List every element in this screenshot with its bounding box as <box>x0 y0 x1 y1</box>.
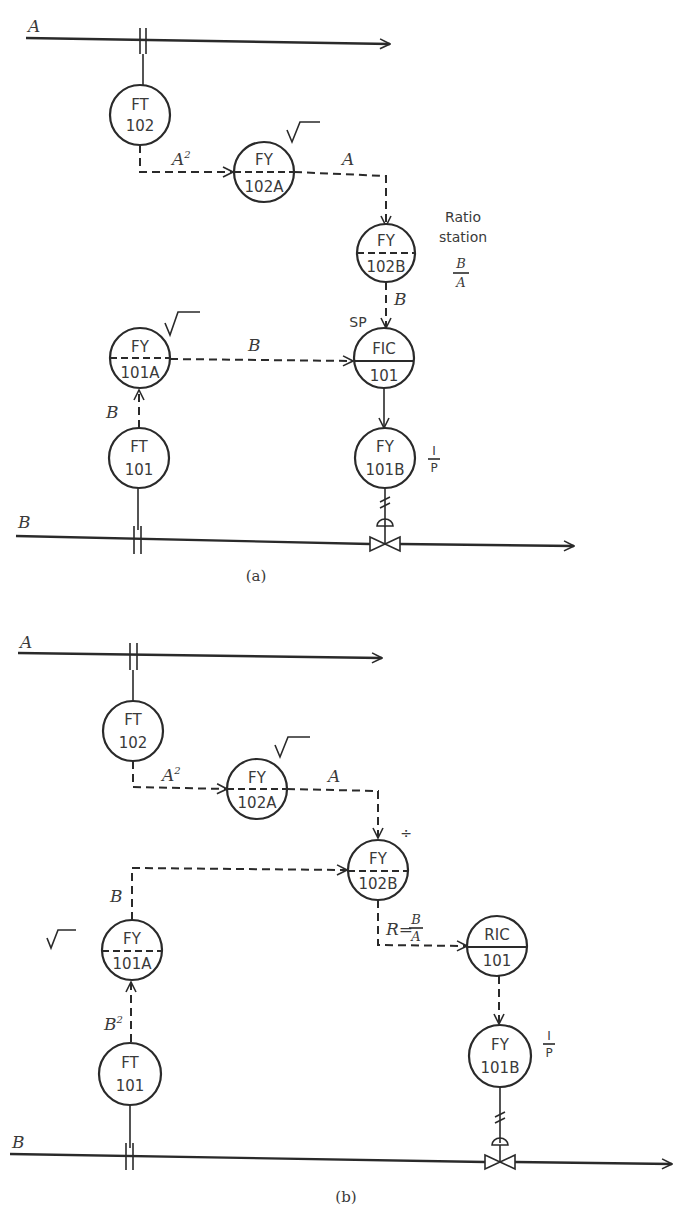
ip-converter-label: I P <box>428 444 440 475</box>
sqrt-icon <box>275 737 310 757</box>
svg-text:101: 101 <box>116 1077 145 1095</box>
svg-text:FY: FY <box>131 338 150 356</box>
svg-text:101: 101 <box>483 952 512 970</box>
instrument-ft101: FT 101 <box>99 1043 161 1105</box>
svg-text:FT: FT <box>131 96 149 114</box>
orifice-plate-a <box>130 643 137 670</box>
svg-text:102B: 102B <box>359 875 398 893</box>
instrument-ft102: FT 102 <box>110 85 170 145</box>
label-b-squared: B2 <box>103 1014 123 1034</box>
instrument-ft101: FT 101 <box>109 428 169 488</box>
label-a-squared: A2 <box>160 765 181 785</box>
svg-text:B: B <box>455 256 466 271</box>
divide-icon: ÷ <box>400 825 412 841</box>
stream-b-label: B <box>11 1132 25 1152</box>
instrument-fy102a: FY 102A <box>234 142 294 202</box>
svg-text:FY: FY <box>377 232 396 250</box>
stream-a-pipe <box>26 38 390 44</box>
svg-text:FY: FY <box>369 850 388 868</box>
stream-a-pipe <box>18 653 382 658</box>
label-b-to-fic: B <box>247 335 261 355</box>
svg-text:102: 102 <box>119 734 148 752</box>
svg-text:A: A <box>455 275 465 290</box>
svg-text:FY: FY <box>491 1036 510 1054</box>
svg-text:FY: FY <box>123 930 142 948</box>
instrument-fic101: FIC 101 <box>354 328 414 388</box>
svg-text:102: 102 <box>126 117 155 135</box>
stream-a-label: A <box>18 632 32 652</box>
ratio-fraction: B A <box>453 256 469 290</box>
svg-text:FY: FY <box>376 438 395 456</box>
sqrt-icon <box>47 930 76 948</box>
svg-text:I: I <box>547 1029 551 1043</box>
instrument-fy102b-ratio-station: FY 102B <box>357 224 415 282</box>
ratio-fraction: B A <box>409 912 423 944</box>
caption-b: (b) <box>335 1188 356 1206</box>
stream-a-label: A <box>26 16 40 36</box>
svg-text:102A: 102A <box>238 794 278 812</box>
svg-text:RIC: RIC <box>484 926 509 944</box>
signal-b-to-fic <box>170 359 353 361</box>
diagram-a: A FT 102 A2 FY 102A A <box>16 16 574 585</box>
label-b-out: B <box>109 886 123 906</box>
svg-text:P: P <box>430 461 437 475</box>
sp-label: SP <box>349 314 366 330</box>
ip-converter-label: I P <box>543 1029 555 1060</box>
svg-text:FT: FT <box>130 438 148 456</box>
ratio-control-diagrams: A FT 102 A2 FY 102A A <box>0 0 691 1220</box>
svg-text:B: B <box>410 912 421 927</box>
caption-a: (a) <box>246 567 267 585</box>
label-b-from-ft101: B <box>105 402 119 422</box>
label-a-out: A <box>340 149 354 169</box>
svg-text:FY: FY <box>248 769 267 787</box>
stream-b-label: B <box>17 512 31 532</box>
instrument-fy102b-divider: FY 102B <box>348 840 408 900</box>
stream-b-pipe-out <box>515 1162 672 1164</box>
svg-text:101B: 101B <box>481 1059 520 1077</box>
instrument-ric101: RIC 101 <box>467 916 527 976</box>
svg-text:I: I <box>432 444 436 458</box>
diagram-b: A FT 102 A2 FY 102A A ÷ <box>10 632 672 1206</box>
instrument-fy102a: FY 102A <box>227 759 287 819</box>
svg-text:FT: FT <box>121 1054 139 1072</box>
stream-b-pipe <box>10 1154 485 1162</box>
ratio-station-label-line1: Ratio <box>445 209 481 225</box>
svg-text:101A: 101A <box>113 955 153 973</box>
svg-text:A: A <box>410 929 420 944</box>
ratio-station-label-line2: station <box>439 229 487 245</box>
label-ratio-r: R= <box>385 919 413 939</box>
instrument-fy101b: FY 101B <box>469 1025 531 1087</box>
signal-a-to-fy102b <box>287 789 378 838</box>
label-a-out: A <box>326 766 340 786</box>
sqrt-icon <box>165 312 200 335</box>
instrument-fy101b: FY 101B <box>355 428 415 488</box>
label-b-setpoint: B <box>393 289 407 309</box>
svg-text:FY: FY <box>255 151 274 169</box>
svg-text:102B: 102B <box>367 258 406 276</box>
label-a-squared: A2 <box>170 149 191 169</box>
svg-text:101B: 101B <box>366 461 405 479</box>
stream-b-pipe-out <box>400 544 574 546</box>
svg-text:102A: 102A <box>245 178 285 196</box>
signal-b-to-fy102b <box>132 868 347 920</box>
sqrt-icon <box>287 122 320 142</box>
svg-text:FIC: FIC <box>372 340 396 358</box>
svg-text:101: 101 <box>370 367 399 385</box>
svg-text:P: P <box>545 1046 552 1060</box>
svg-text:FT: FT <box>124 711 142 729</box>
stream-b-pipe <box>16 536 370 544</box>
svg-text:101A: 101A <box>121 364 161 382</box>
instrument-fy101a: FY 101A <box>110 328 170 388</box>
instrument-ft102: FT 102 <box>103 701 163 761</box>
signal-a-to-fy102b <box>294 172 386 226</box>
instrument-fy101a: FY 101A <box>102 920 162 980</box>
svg-text:101: 101 <box>125 461 154 479</box>
